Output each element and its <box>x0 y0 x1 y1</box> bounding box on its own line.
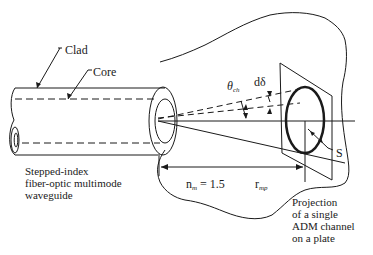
fiber-left-end <box>11 88 15 120</box>
s-label: S <box>336 147 343 159</box>
clad-label: Clad <box>65 44 88 56</box>
clad-leader <box>37 48 60 88</box>
waveguide-caption: Stepped-index fiber-optic multimode wave… <box>25 165 122 201</box>
fiber-optic-diagram: Clad Core θch dδ S nm = 1.5 rmp Stepped-… <box>0 0 373 255</box>
core-label: Core <box>93 66 116 78</box>
r-mp-label: rmp <box>255 178 268 192</box>
d-delta-label: dδ <box>254 76 266 88</box>
projection-caption: Projection of a single ADM channel on a … <box>292 196 355 244</box>
projection-ray <box>158 121 345 163</box>
theta-ch-label: θch <box>227 80 240 94</box>
n-m-label: nm = 1.5 <box>186 178 225 192</box>
d-delta-leader <box>268 96 270 102</box>
cone-ray-inner <box>158 103 300 118</box>
